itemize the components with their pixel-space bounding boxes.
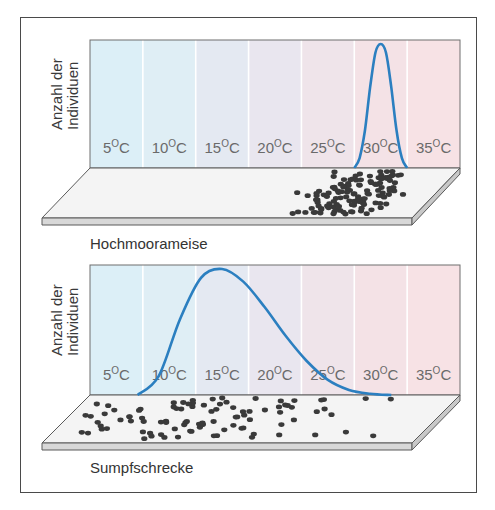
individual-dot [362,196,368,201]
individual-dot [79,430,85,435]
individual-dot [171,405,177,410]
individual-dot [364,211,370,216]
y-axis-label-line1: Anzahl der [48,58,65,130]
platform-front-edge [42,443,412,450]
individual-dot [328,412,334,417]
individual-dot [247,417,253,422]
individual-dot [211,419,217,424]
individual-dot [358,177,364,182]
individual-dot [349,202,355,207]
individual-dot [343,430,349,435]
individual-dot [117,418,123,423]
individual-dot [326,191,332,196]
individual-dot [314,191,320,196]
individual-dot [85,431,91,436]
individual-dot [246,409,252,414]
individual-dot [137,407,143,412]
y-axis-label: Anzahl der Individuen [48,58,81,130]
individual-dot [251,432,257,437]
individual-dot [388,397,394,402]
individual-dot [199,421,205,426]
individual-dot [340,185,346,190]
platform-front-edge [42,218,412,225]
y-axis-label: Anzahl der Individuen [48,284,81,356]
individual-dot [312,433,318,438]
individual-dot [400,192,406,197]
individual-dot [348,177,354,182]
individual-dot [341,177,347,182]
individual-dot [262,408,268,413]
habitat-platform [42,395,460,450]
individual-dot [102,411,108,416]
individual-dot [141,436,147,441]
individual-dot [219,396,225,401]
individual-dot [105,403,111,408]
individual-dot [171,400,177,405]
individual-dot [290,211,296,216]
individual-dot [378,205,384,210]
individual-dot [370,433,376,438]
individual-dot [172,427,178,432]
individual-dot [294,190,300,195]
individual-dot [210,397,216,402]
individual-dot [368,207,374,212]
individual-dot [366,192,372,197]
individual-dot [309,206,315,211]
individual-dot [330,211,336,216]
individual-dot [128,419,134,424]
individual-dot [291,398,297,403]
individual-dot [175,435,181,440]
temperature-distribution-diagram: 5OC10OC15OC20OC25OC30OC35OC Anzahl der I… [0,0,495,510]
individual-dot [331,199,337,204]
individual-dot [240,409,246,414]
individual-dot [367,174,373,179]
individual-dot [94,402,100,407]
individual-dot [314,409,320,414]
panel-hochmoorameise: 5OC10OC15OC20OC25OC30OC35OC Anzahl der I… [42,40,460,252]
individual-dot [355,197,361,202]
individual-dot [95,420,101,425]
individual-dot [230,423,236,428]
individual-dot [253,396,259,401]
individual-dot [379,176,385,181]
individual-dot [311,210,317,215]
individual-dot [278,422,284,427]
individual-dot [375,188,381,193]
panel-sumpfschrecke: 5OC10OC15OC20OC25OC30OC35OC Anzahl der I… [42,265,460,476]
individual-dot [277,410,283,415]
individual-dot [295,210,301,215]
individual-dot [180,400,186,405]
individual-dot [104,426,110,431]
individual-dot [318,398,324,403]
individual-dot [387,186,393,191]
individual-dot [278,399,284,404]
individual-dot [276,405,282,410]
individual-dot [368,180,374,185]
individual-dot [201,403,207,408]
individual-dot [233,415,239,420]
individual-dot [188,429,194,434]
individual-dot [383,202,389,207]
individual-dot [377,169,383,174]
individual-dot [339,189,345,194]
individual-dot [357,172,363,177]
individual-dot [285,403,291,408]
individual-dot [126,414,132,419]
individual-dot [336,204,342,209]
individual-dot [291,418,297,423]
individual-dot [356,183,362,188]
individual-dot [140,430,146,435]
individual-dot [387,178,393,183]
individual-dot [331,174,337,179]
individual-dot [139,416,145,421]
individual-dot [178,407,184,412]
individual-dot [363,396,369,401]
individual-dot [398,172,404,177]
individual-dot [217,402,223,407]
individual-dot [349,210,355,215]
individual-dot [316,204,322,209]
individual-dot [331,170,337,175]
individual-dot [326,205,332,210]
individual-dot [211,433,217,438]
individual-dot [230,405,236,410]
